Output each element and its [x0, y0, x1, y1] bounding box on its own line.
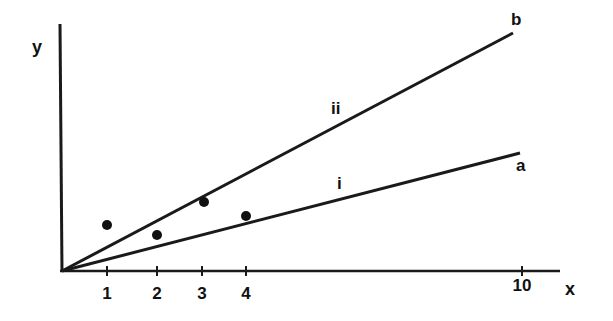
line-b-end-label: b [511, 11, 521, 28]
x-axis-label: x [565, 280, 575, 298]
line-a [62, 153, 520, 271]
line-b [62, 33, 513, 271]
y-axis-label: y [32, 38, 42, 56]
line-a-end-label: a [516, 157, 525, 174]
line-b-roman-label: ii [331, 100, 340, 117]
data-point [102, 220, 112, 230]
data-point [152, 230, 162, 240]
x-tick-label: 3 [197, 285, 206, 302]
data-point [199, 197, 209, 207]
line-a-roman-label: i [337, 175, 342, 192]
x-tick-label: 2 [152, 285, 161, 302]
x-tick-label: 10 [513, 277, 532, 294]
x-tick-label: 1 [102, 285, 111, 302]
y-axis [60, 24, 62, 272]
x-tick-label: 4 [241, 285, 250, 302]
scatter-points [102, 197, 251, 240]
data-point [241, 211, 251, 221]
